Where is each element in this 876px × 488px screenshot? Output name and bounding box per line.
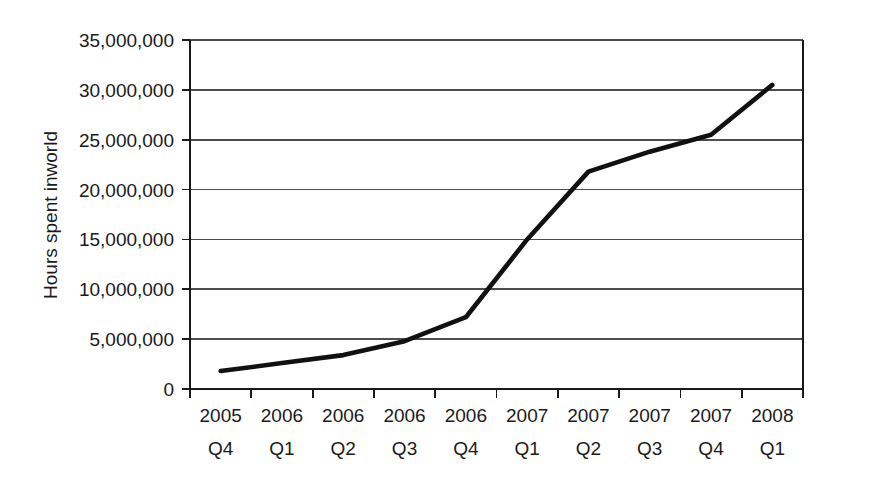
x-tick-label-quarter: Q4 <box>453 438 479 459</box>
y-tick-label: 30,000,000 <box>79 80 174 101</box>
y-axis-title: Hours spent inworld <box>40 131 61 299</box>
x-tick-marks <box>190 389 803 398</box>
chart-canvas: 05,000,00010,000,00015,000,00020,000,000… <box>0 0 876 488</box>
y-tick-label: 0 <box>163 379 174 400</box>
y-tick-marks <box>182 40 190 389</box>
y-tick-label: 35,000,000 <box>79 30 174 51</box>
x-tick-label-year: 2006 <box>383 405 425 426</box>
x-tick-label-quarter: Q2 <box>331 438 356 459</box>
plot-background <box>190 40 803 389</box>
x-tick-label-year: 2006 <box>322 405 364 426</box>
y-tick-label: 10,000,000 <box>79 279 174 300</box>
x-tick-labels: 2005Q42006Q12006Q22006Q32006Q42007Q12007… <box>200 405 794 459</box>
x-tick-label-year: 2007 <box>567 405 609 426</box>
x-tick-label-quarter: Q1 <box>269 438 294 459</box>
x-tick-label-year: 2007 <box>690 405 732 426</box>
line-chart: 05,000,00010,000,00015,000,00020,000,000… <box>0 0 876 488</box>
y-tick-labels: 05,000,00010,000,00015,000,00020,000,000… <box>79 30 174 400</box>
x-tick-label-quarter: Q4 <box>698 438 724 459</box>
x-tick-label-year: 2005 <box>200 405 242 426</box>
x-tick-label-year: 2007 <box>506 405 548 426</box>
y-tick-label: 5,000,000 <box>89 329 174 350</box>
x-tick-label-quarter: Q3 <box>637 438 662 459</box>
x-tick-label-year: 2006 <box>261 405 303 426</box>
x-tick-label-quarter: Q4 <box>208 438 234 459</box>
x-tick-label-quarter: Q1 <box>514 438 539 459</box>
x-tick-label-quarter: Q1 <box>760 438 785 459</box>
x-tick-label-quarter: Q2 <box>576 438 601 459</box>
x-tick-label-year: 2008 <box>751 405 793 426</box>
y-axis-title-group: Hours spent inworld <box>40 131 61 299</box>
y-tick-label: 15,000,000 <box>79 229 174 250</box>
x-tick-label-year: 2006 <box>445 405 487 426</box>
y-tick-label: 25,000,000 <box>79 130 174 151</box>
x-tick-label-year: 2007 <box>629 405 671 426</box>
x-tick-label-quarter: Q3 <box>392 438 417 459</box>
y-tick-label: 20,000,000 <box>79 180 174 201</box>
